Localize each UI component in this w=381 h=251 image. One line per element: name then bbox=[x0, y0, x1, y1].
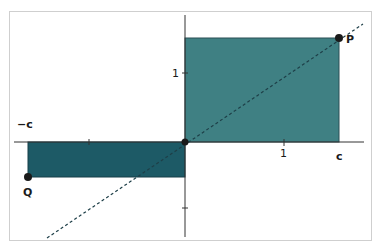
label-neg-c: −c bbox=[17, 118, 33, 131]
label-y-one: 1 bbox=[172, 67, 179, 80]
label-c: c bbox=[336, 150, 343, 163]
label-x-one: 1 bbox=[280, 147, 287, 160]
upper-rectangle bbox=[185, 38, 339, 142]
point-p bbox=[335, 34, 343, 42]
lower-rectangle bbox=[28, 142, 185, 177]
point-q bbox=[24, 173, 32, 181]
label-p: P bbox=[346, 33, 354, 46]
figure-canvas: P Q −c c 1 1 bbox=[0, 0, 381, 251]
origin-point bbox=[182, 139, 189, 146]
label-q: Q bbox=[23, 186, 32, 199]
